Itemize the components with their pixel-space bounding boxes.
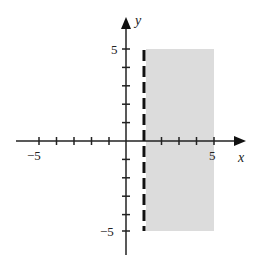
x-axis-arrow-icon xyxy=(234,136,246,146)
x-axis-label: x xyxy=(237,150,245,165)
inequality-graph: −5 5 x y 5 −5 xyxy=(0,0,266,270)
shaded-region xyxy=(146,49,214,231)
y-axis-label: y xyxy=(133,13,142,28)
x-min-label: −5 xyxy=(27,148,41,163)
x-max-label: 5 xyxy=(209,148,216,163)
y-min-label: −5 xyxy=(100,224,114,239)
y-max-label: 5 xyxy=(111,42,118,57)
y-axis-arrow-icon xyxy=(121,17,131,29)
